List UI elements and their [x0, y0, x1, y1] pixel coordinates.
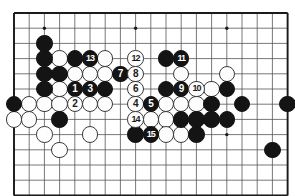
go-stone-white: [158, 96, 174, 112]
go-stone-black: [127, 126, 143, 142]
go-stone-black: [203, 111, 219, 127]
go-stone-black: [234, 96, 250, 112]
go-stone-black: [36, 66, 52, 82]
go-move-number: 3: [87, 83, 92, 93]
go-move-stone-7: 7: [112, 66, 128, 82]
go-stone-black: [158, 50, 174, 66]
go-stone-black: [36, 50, 52, 66]
go-stone-white: [67, 66, 83, 82]
go-move-stone-10: 10: [188, 81, 204, 97]
go-stone-white: [51, 50, 67, 66]
go-stone-black: [173, 111, 189, 127]
go-move-number: 1: [72, 83, 77, 93]
go-stone-white: [21, 96, 37, 112]
go-move-stone-11: 11: [173, 50, 189, 66]
go-stone-white: [82, 96, 98, 112]
go-move-number: 2: [72, 99, 77, 109]
go-stone-white: [173, 66, 189, 82]
go-move-number: 8: [133, 68, 138, 78]
go-stone-black: [51, 111, 67, 127]
go-move-stone-14: 14: [127, 111, 143, 127]
go-move-number: 5: [148, 99, 153, 109]
go-move-stone-6: 6: [127, 81, 143, 97]
go-move-number: 12: [132, 54, 140, 63]
go-stone-black: [203, 96, 219, 112]
go-move-number: 4: [133, 99, 138, 109]
go-stone-black: [219, 111, 235, 127]
go-stone-black: [97, 81, 113, 97]
go-move-number: 13: [86, 54, 94, 63]
go-move-stone-12: 12: [127, 50, 143, 66]
go-stone-white: [143, 111, 159, 127]
go-stone-black: [51, 66, 67, 82]
go-stone-white: [36, 96, 52, 112]
go-move-stone-2: 2: [67, 96, 83, 112]
go-stone-black: [279, 96, 295, 112]
go-stone-white: [97, 66, 113, 82]
go-stone-white: [51, 81, 67, 97]
go-move-number: 11: [177, 54, 185, 63]
go-stone-white: [82, 126, 98, 142]
go-stone-white: [158, 126, 174, 142]
go-stone-white: [51, 142, 67, 158]
go-stone-white: [173, 96, 189, 112]
go-move-stone-8: 8: [127, 66, 143, 82]
go-stone-layer: 123456789101112131415: [0, 0, 295, 196]
go-stone-white: [158, 111, 174, 127]
go-stone-white: [21, 111, 37, 127]
go-stone-black: [188, 126, 204, 142]
go-move-stone-13: 13: [82, 50, 98, 66]
go-stone-white: [173, 126, 189, 142]
go-move-number: 10: [192, 84, 200, 93]
go-move-stone-3: 3: [82, 81, 98, 97]
go-move-stone-9: 9: [173, 81, 189, 97]
go-move-number: 7: [118, 68, 123, 78]
go-move-stone-4: 4: [127, 96, 143, 112]
go-stone-black: [36, 81, 52, 97]
go-stone-white: [97, 50, 113, 66]
go-stone-white: [97, 96, 113, 112]
go-stone-white: [51, 96, 67, 112]
go-stone-black: [264, 142, 280, 158]
go-stone-white: [203, 81, 219, 97]
go-stone-white: [36, 126, 52, 142]
go-move-number: 14: [132, 114, 140, 123]
go-stone-black: [219, 81, 235, 97]
go-stone-black: [67, 50, 83, 66]
go-stone-black: [188, 111, 204, 127]
go-stone-black: [158, 81, 174, 97]
go-stone-white: [82, 66, 98, 82]
go-move-stone-5: 5: [143, 96, 159, 112]
go-move-number: 9: [179, 83, 184, 93]
go-stone-black: [6, 96, 22, 112]
go-stone-white: [219, 66, 235, 82]
go-move-number: 15: [147, 130, 155, 139]
go-move-stone-15: 15: [143, 126, 159, 142]
go-stone-white: [6, 111, 22, 127]
go-stone-white: [188, 96, 204, 112]
go-stone-black: [36, 35, 52, 51]
go-move-number: 6: [133, 83, 138, 93]
go-move-stone-1: 1: [67, 81, 83, 97]
go-board-diagram: 123456789101112131415: [0, 0, 295, 196]
